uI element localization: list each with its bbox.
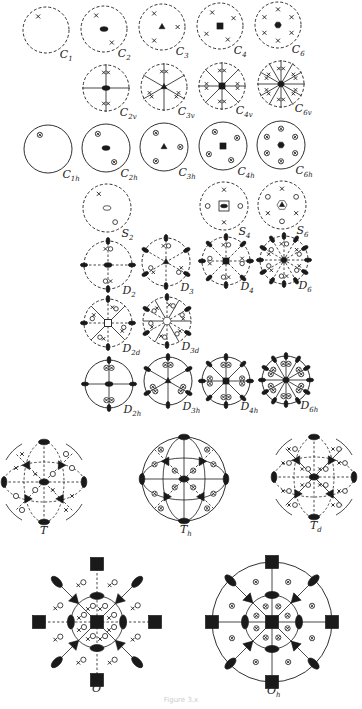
twofold-axis-icon xyxy=(246,379,253,383)
pole-below-icon xyxy=(19,507,24,512)
twofold-axis-icon xyxy=(107,356,111,363)
projection-C6: C6 xyxy=(255,2,305,58)
pole-above-icon xyxy=(236,82,239,85)
twofold-axis-icon xyxy=(258,378,265,382)
pole-coincident-icon xyxy=(309,603,314,608)
twofold-axis-icon xyxy=(183,271,191,278)
pole-coincident-icon xyxy=(229,603,234,608)
pole-below-icon xyxy=(287,461,292,466)
twofold-axis-icon xyxy=(80,263,87,267)
pole-below-icon xyxy=(33,487,38,492)
pole-coincident-icon xyxy=(211,462,216,467)
projection-C2: C2 xyxy=(81,6,131,62)
pole-above-icon xyxy=(160,70,163,73)
pole-above-icon xyxy=(232,16,236,20)
pole-coincident-icon xyxy=(212,129,217,134)
pole-coincident-icon xyxy=(286,361,291,366)
twofold-axis-icon xyxy=(261,389,269,396)
pole-above-icon xyxy=(175,95,178,98)
projection-C4h: C4h xyxy=(199,122,255,180)
twofold-axis-icon xyxy=(142,306,150,313)
pole-above-icon xyxy=(210,10,214,14)
twofold-axis-icon xyxy=(142,330,150,337)
pole-above-icon xyxy=(292,73,295,76)
pole-above-icon xyxy=(295,248,298,251)
twofold-axis-icon xyxy=(106,237,110,244)
twofold-axis-icon xyxy=(179,434,190,440)
projection-S2: S2 xyxy=(83,184,134,242)
twofold-axis-icon xyxy=(269,235,276,243)
fourfold-axis-icon xyxy=(326,616,339,629)
twofold-axis-icon xyxy=(295,355,302,363)
pole-coincident-icon xyxy=(240,376,245,381)
pole-below-icon xyxy=(205,204,210,209)
twofold-axis-icon xyxy=(306,378,313,382)
pole-above-icon xyxy=(294,88,297,91)
twofold-axis-icon xyxy=(304,258,311,262)
twofold-axis-icon xyxy=(198,379,205,383)
twofold-axis-icon xyxy=(49,655,64,670)
pole-above-icon xyxy=(152,11,156,15)
twofold-axis-icon xyxy=(351,472,357,483)
pole-coincident-icon xyxy=(207,376,212,381)
pole-coincident-icon xyxy=(276,635,281,640)
group-label: T xyxy=(40,524,49,537)
group-label: D2 xyxy=(121,284,136,299)
pole-coincident-icon xyxy=(309,636,314,641)
pole-above-icon xyxy=(222,220,226,224)
pole-below-icon xyxy=(279,274,283,278)
twofold-axis-icon xyxy=(49,574,64,589)
primitive-circle xyxy=(24,125,72,173)
pole-below-icon xyxy=(323,467,328,472)
twofold-axis-icon xyxy=(81,382,88,386)
pole-coincident-icon xyxy=(153,130,158,135)
fourfold-inversion-icon xyxy=(105,320,112,327)
pole-below-icon xyxy=(337,447,342,452)
pole-below-icon xyxy=(102,633,107,638)
pole-below-icon xyxy=(323,483,328,488)
twofold-axis-icon xyxy=(143,366,151,373)
twofold-axis-icon xyxy=(105,382,113,387)
pole-above-icon xyxy=(337,461,340,464)
pole-above-icon xyxy=(331,447,334,450)
pole-above-icon xyxy=(97,192,101,196)
twofold-axis-icon xyxy=(265,646,279,653)
group-label: D6 xyxy=(297,279,312,294)
projection-D3h: D3h xyxy=(143,353,200,415)
twofold-axis-icon xyxy=(185,390,193,397)
arc-segment xyxy=(6,504,22,520)
pole-coincident-icon xyxy=(253,579,258,584)
twofold-axis-icon xyxy=(164,234,168,241)
pole-coincident-icon xyxy=(281,361,286,366)
group-label: C6v xyxy=(295,102,312,117)
group-label: C1h xyxy=(62,168,79,183)
pole-above-icon xyxy=(53,638,57,642)
pole-below-icon xyxy=(269,248,273,252)
twofold-axis-icon xyxy=(296,615,303,629)
projection-C3h: C3h xyxy=(140,123,196,181)
pole-below-icon xyxy=(175,332,179,336)
pole-coincident-icon xyxy=(268,383,273,388)
pole-above-icon xyxy=(108,661,112,665)
pole-above-icon xyxy=(205,86,208,89)
projection-C4v: C4v xyxy=(198,62,253,119)
pole-coincident-icon xyxy=(240,381,245,386)
pole-below-icon xyxy=(90,316,94,320)
threefold-axis-icon xyxy=(199,457,207,466)
pole-above-icon xyxy=(331,503,334,506)
threefold-axis-icon xyxy=(56,494,64,503)
fourfold-axis-icon xyxy=(266,616,279,629)
pole-below-icon xyxy=(81,612,86,617)
twofold-axis-icon xyxy=(282,280,286,287)
pole-below-icon xyxy=(221,275,225,279)
threefold-axis-icon xyxy=(58,461,66,470)
pole-above-icon xyxy=(92,313,95,316)
pole-coincident-icon xyxy=(152,462,157,467)
projection-C2h: C2h xyxy=(82,124,138,182)
pole-above-icon xyxy=(121,329,124,332)
pole-above-icon xyxy=(148,91,151,94)
projection-C6h: C6h xyxy=(257,121,313,179)
pole-coincident-icon xyxy=(191,468,196,473)
pole-coincident-icon xyxy=(235,135,240,140)
twofold-axis-icon xyxy=(261,365,269,372)
